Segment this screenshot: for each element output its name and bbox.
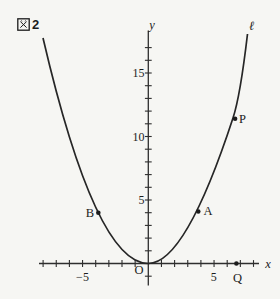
x-axis-label: x (264, 257, 271, 271)
point-A-label: A (204, 204, 213, 218)
figure-label: 2 (17, 18, 39, 31)
y-tick-label-5: 5 (139, 193, 145, 207)
point-B-dot (96, 210, 101, 215)
line-l-label: ℓ (249, 19, 254, 33)
point-B-label: B (86, 206, 94, 220)
y-axis-label: y (147, 18, 155, 32)
figure-2-panel: y x O ℓ 15 10 5 −5 5 B A P Q 2 (0, 0, 280, 299)
point-Q-label: Q (233, 271, 242, 285)
x-tick-label-neg5: −5 (76, 270, 89, 284)
y-tick-label-10: 10 (133, 130, 145, 144)
axes (39, 31, 259, 286)
figure-canvas: y x O ℓ 15 10 5 −5 5 B A P Q (0, 0, 280, 299)
point-P-label: P (239, 112, 246, 126)
point-Q-dot (234, 261, 239, 266)
point-P-dot (233, 116, 238, 121)
figure-number: 2 (32, 18, 39, 31)
x-tick-label-5: 5 (211, 270, 217, 284)
point-A-dot (196, 209, 201, 214)
y-tick-label-15: 15 (133, 66, 145, 80)
origin-label: O (134, 263, 143, 277)
zu-kanji-icon (17, 18, 30, 31)
